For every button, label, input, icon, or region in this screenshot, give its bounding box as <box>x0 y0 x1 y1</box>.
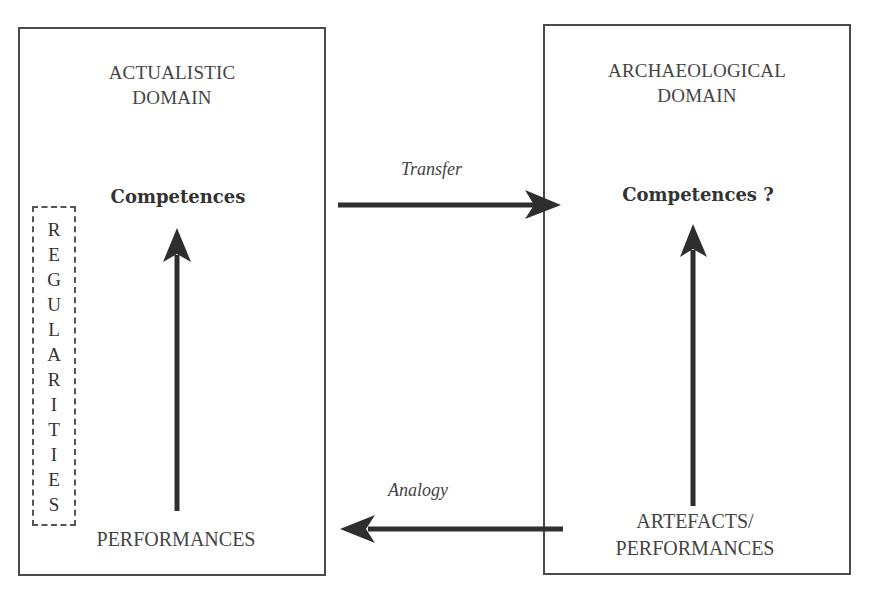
regularities-letter: R <box>34 370 74 390</box>
actualistic-domain-title: ACTUALISTIC DOMAIN <box>18 60 326 110</box>
arrow-right-icon <box>338 190 561 219</box>
title-line: DOMAIN <box>543 83 851 108</box>
title-line: ARCHAEOLOGICAL <box>543 58 851 83</box>
regularities-letter: E <box>34 245 74 265</box>
artefacts-performances-node-right: ARTEFACTS/ PERFORMANCES <box>585 508 805 562</box>
competences-node-left: Competences <box>78 186 278 207</box>
regularities-letter: E <box>34 470 74 490</box>
regularities-letter: T <box>34 420 74 440</box>
regularities-letter: I <box>34 395 74 415</box>
arrow-left-icon <box>340 515 563 543</box>
regularities-letter: R <box>34 220 74 240</box>
performances-node-left: PERFORMANCES <box>66 526 286 553</box>
transfer-label: Transfer <box>401 159 462 180</box>
regularities-letter: I <box>34 445 74 465</box>
label-line: PERFORMANCES <box>585 535 805 562</box>
regularities-letter: A <box>34 345 74 365</box>
regularities-letter: L <box>34 320 74 340</box>
label-line: ARTEFACTS/ <box>585 508 805 535</box>
label-line: PERFORMANCES <box>66 526 286 553</box>
regularities-letter: S <box>34 495 74 515</box>
regularities-box: R E G U L A R I T I E S <box>32 206 76 526</box>
title-line: ACTUALISTIC <box>18 60 326 85</box>
competences-node-right: Competences ? <box>598 184 798 205</box>
analogy-label: Analogy <box>388 480 448 501</box>
regularities-letter: U <box>34 295 74 315</box>
title-line: DOMAIN <box>18 85 326 110</box>
regularities-letter: G <box>34 270 74 290</box>
archaeological-domain-title: ARCHAEOLOGICAL DOMAIN <box>543 58 851 108</box>
